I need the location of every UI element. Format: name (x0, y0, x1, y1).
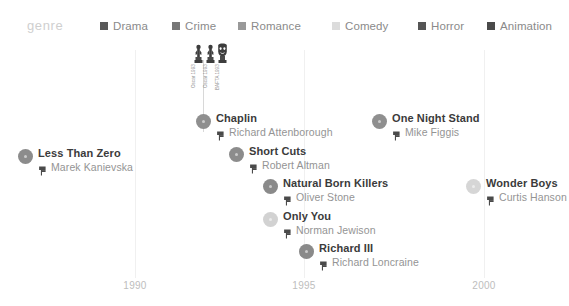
film-title: Short Cuts (249, 145, 330, 158)
x-tick-label: 1995 (292, 280, 315, 291)
legend-item-animation[interactable]: Animation (487, 19, 552, 33)
film-director-row: Robert Altman (249, 159, 330, 171)
film-director: Norman Jewison (296, 224, 376, 236)
director-chair-icon (392, 127, 401, 137)
legend-item-label: Drama (113, 20, 148, 33)
film-title: Chaplin (216, 112, 333, 125)
square-swatch (238, 22, 246, 30)
director-chair-icon (38, 162, 47, 172)
film-genre-dot[interactable] (299, 244, 314, 259)
film-genre-dot[interactable] (263, 212, 278, 227)
film-director-row: Richard Loncraine (319, 256, 419, 268)
film-director-row: Oliver Stone (283, 191, 388, 203)
director-chair-icon (216, 127, 225, 137)
genre-legend: genre DramaCrimeRomanceComedyHorrorAnima… (0, 0, 569, 42)
square-swatch (332, 22, 340, 30)
film-director-row: Richard Attenborough (216, 126, 333, 138)
film-director: Richard Attenborough (229, 126, 333, 138)
legend-item-label: Horror (431, 20, 464, 33)
legend-title: genre (27, 19, 63, 33)
legend-item-label: Animation (500, 20, 552, 33)
timeline-plot-area: 199019952000 Oscar 1993Oscar 1993BAFTA 1… (0, 42, 569, 306)
film-genre-dot[interactable] (372, 114, 387, 129)
director-chair-icon (486, 192, 495, 202)
gridline-1990 (135, 50, 136, 278)
x-tick-label: 2000 (472, 280, 495, 291)
award-caption: Oscar 1993 (191, 64, 196, 98)
award-badge[interactable]: BAFTA 1993 (215, 42, 230, 98)
film-director: Mike Figgis (405, 126, 459, 138)
legend-item-romance[interactable]: Romance (238, 19, 301, 33)
film-title: Richard III (319, 242, 419, 255)
legend-item-horror[interactable]: Horror (418, 19, 464, 33)
director-chair-icon (283, 192, 292, 202)
square-swatch (418, 22, 426, 30)
film-genre-dot[interactable] (196, 114, 211, 129)
film-director-row: Curtis Hanson (486, 191, 567, 203)
film-label-group: Richard IIIRichard Loncraine (319, 242, 419, 268)
x-tick-label: 1990 (123, 280, 146, 291)
film-genre-dot[interactable] (18, 149, 33, 164)
film-label-group: Short CutsRobert Altman (249, 145, 330, 171)
film-label-group: Only YouNorman Jewison (283, 210, 376, 236)
film-label-group: Less Than ZeroMarek Kanievska (38, 147, 133, 173)
film-genre-dot[interactable] (229, 147, 244, 162)
award-caption: Oscar 1993 (203, 64, 208, 98)
film-director-row: Marek Kanievska (38, 161, 133, 173)
film-director: Robert Altman (262, 159, 330, 171)
film-genre-dot[interactable] (466, 179, 481, 194)
director-chair-icon (283, 225, 292, 235)
gridline-2000 (484, 50, 485, 278)
director-chair-icon (319, 257, 328, 267)
square-swatch (172, 22, 180, 30)
director-chair-icon (249, 160, 258, 170)
square-swatch (487, 22, 495, 30)
film-label-group: Wonder BoysCurtis Hanson (486, 177, 567, 203)
film-director-row: Norman Jewison (283, 224, 376, 236)
film-label-group: Natural Born KillersOliver Stone (283, 177, 388, 203)
film-label-group: ChaplinRichard Attenborough (216, 112, 333, 138)
film-director-row: Mike Figgis (392, 126, 480, 138)
film-title: Wonder Boys (486, 177, 567, 190)
legend-item-crime[interactable]: Crime (172, 19, 216, 33)
legend-item-label: Comedy (345, 20, 388, 33)
legend-item-label: Crime (185, 20, 216, 33)
film-genre-dot[interactable] (263, 179, 278, 194)
award-caption: BAFTA 1993 (215, 64, 220, 98)
legend-item-label: Romance (251, 20, 301, 33)
film-title: Only You (283, 210, 376, 223)
film-director: Curtis Hanson (499, 191, 567, 203)
film-director: Oliver Stone (296, 191, 355, 203)
bafta-mask-icon (215, 42, 230, 63)
legend-item-comedy[interactable]: Comedy (332, 19, 388, 33)
film-label-group: One Night StandMike Figgis (392, 112, 480, 138)
legend-item-drama[interactable]: Drama (100, 19, 148, 33)
film-director: Richard Loncraine (332, 256, 419, 268)
film-director: Marek Kanievska (51, 161, 133, 173)
film-title: One Night Stand (392, 112, 480, 125)
square-swatch (100, 22, 108, 30)
film-title: Natural Born Killers (283, 177, 388, 190)
film-title: Less Than Zero (38, 147, 133, 160)
